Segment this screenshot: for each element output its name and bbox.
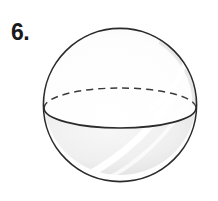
- sphere-figure: 6.: [0, 0, 218, 201]
- sphere-diagram: [0, 0, 218, 201]
